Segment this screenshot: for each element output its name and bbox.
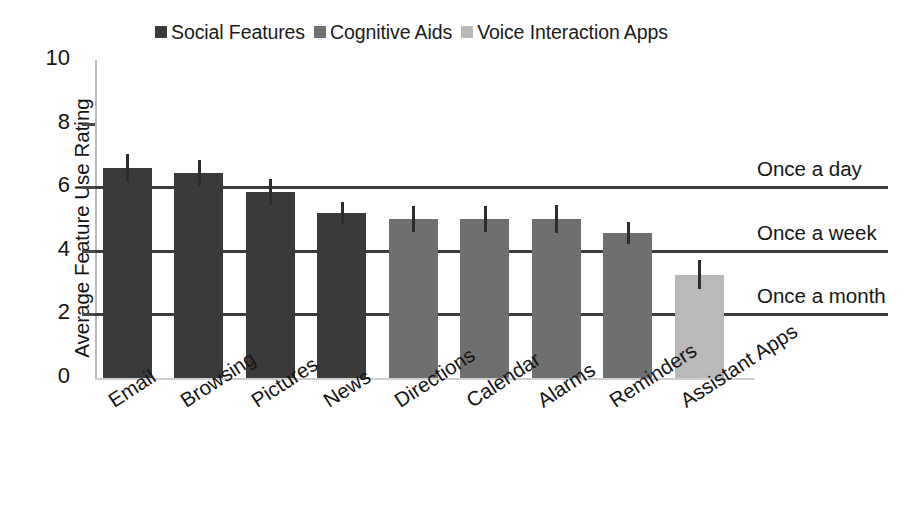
- legend-swatch-voice-interaction-apps: [461, 26, 473, 38]
- legend-item-voice-interaction-apps: Voice Interaction Apps: [461, 23, 668, 42]
- legend-swatch-cognitive-aids: [314, 26, 326, 38]
- bar-pictures: [246, 192, 295, 378]
- y-axis-line: [95, 60, 97, 379]
- bar-email: [103, 168, 152, 378]
- legend-item-social-features: Social Features: [155, 23, 305, 42]
- y-tick-label-8: 8: [30, 111, 70, 133]
- legend-item-cognitive-aids: Cognitive Aids: [314, 23, 452, 42]
- error-bar-news: [341, 202, 344, 224]
- y-tick-mark-8: [82, 123, 95, 126]
- bar-browsing: [174, 173, 223, 378]
- y-tick-label-0: 0: [30, 365, 70, 387]
- legend-swatch-social-features: [155, 26, 167, 38]
- y-axis-title: Average Feature Use Rating: [72, 88, 92, 368]
- bar-reminders: [603, 233, 652, 378]
- reference-label-once-a-day: Once a day: [757, 159, 862, 179]
- error-bar-calendar: [484, 206, 487, 231]
- legend-label-social-features: Social Features: [171, 23, 305, 42]
- bar-news: [317, 213, 366, 378]
- error-bar-reminders: [627, 222, 630, 244]
- y-tick-mark-6: [82, 186, 95, 189]
- error-bar-alarms: [555, 205, 558, 234]
- y-tick-label-2: 2: [30, 301, 70, 323]
- bar-directions: [389, 219, 438, 378]
- error-bar-browsing: [198, 160, 201, 185]
- reference-label-once-a-week: Once a week: [757, 223, 877, 243]
- y-tick-mark-2: [82, 313, 95, 316]
- error-bar-assistant-apps: [698, 260, 701, 289]
- error-bar-pictures: [269, 179, 272, 204]
- bar-chart-figure: Social Features Cognitive Aids Voice Int…: [0, 0, 910, 529]
- chart-legend: Social Features Cognitive Aids Voice Int…: [155, 20, 677, 44]
- y-tick-label-4: 4: [30, 238, 70, 260]
- y-tick-mark-4: [82, 250, 95, 253]
- error-bar-email: [126, 154, 129, 183]
- bar-alarms: [532, 219, 581, 378]
- legend-label-cognitive-aids: Cognitive Aids: [330, 23, 452, 42]
- error-bar-directions: [412, 206, 415, 231]
- reference-label-once-a-month: Once a month: [757, 286, 886, 306]
- legend-label-voice-interaction-apps: Voice Interaction Apps: [477, 23, 668, 42]
- y-tick-label-10: 10: [30, 47, 70, 69]
- y-tick-label-6: 6: [30, 174, 70, 196]
